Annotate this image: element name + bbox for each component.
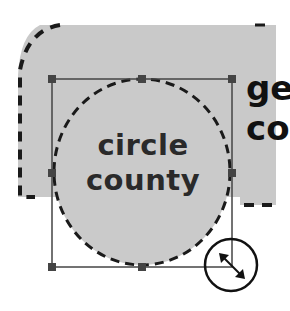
background-shape-label: ge co <box>246 68 290 148</box>
resize-handle-top-right <box>228 75 236 83</box>
resize-handle-middle-right <box>228 169 236 177</box>
resize-handle-top-center <box>138 75 146 83</box>
resize-handle-top-left <box>48 75 56 83</box>
circle-label-line1: circle <box>60 128 226 163</box>
resize-diagonal-cursor-icon <box>205 239 257 291</box>
drawing-canvas[interactable]: circle county ge co <box>0 0 290 311</box>
background-label-line1: ge <box>246 68 290 108</box>
resize-handle-bottom-center <box>138 263 146 271</box>
resize-handle-bottom-left <box>48 263 56 271</box>
circle-shape-label: circle county <box>60 128 226 198</box>
background-label-line2: co <box>246 108 290 148</box>
resize-handle-middle-left <box>48 169 56 177</box>
circle-label-line2: county <box>60 163 226 198</box>
